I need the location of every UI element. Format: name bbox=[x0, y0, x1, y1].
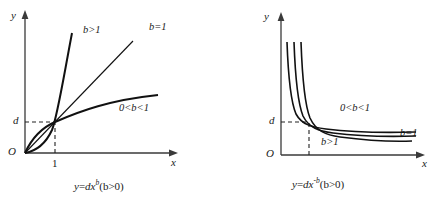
x-axis-right bbox=[281, 152, 425, 159]
caption-right: y=dx-b(b>0) bbox=[292, 178, 344, 190]
y-tick-label-d: d bbox=[269, 115, 275, 126]
caption-left: y=dxb(b>0) bbox=[74, 180, 124, 192]
chart-panel-power-negative: y x O d 0<b<1 b=1 b>1 y=dx-b(b>0) bbox=[220, 0, 440, 204]
plot-right-svg bbox=[220, 0, 440, 180]
x-axis-left bbox=[25, 150, 178, 157]
x-axis-label: x bbox=[171, 157, 176, 168]
x-tick-label-1: 1 bbox=[52, 158, 58, 169]
caption-left-condition: (b>0) bbox=[99, 180, 124, 192]
caption-right-condition: (b>0) bbox=[320, 178, 345, 190]
dashed-guides-right bbox=[281, 122, 309, 155]
curve-upper-b-between-0-and-1 bbox=[287, 42, 416, 132]
y-axis-label: y bbox=[264, 11, 269, 22]
y-axis-label: y bbox=[11, 10, 16, 21]
curve-b-greater-1 bbox=[25, 33, 72, 153]
curve-label-b-between-0-and-1: 0<b<1 bbox=[340, 103, 370, 114]
figure-container: y x O d 1 b>1 b=1 0<b<1 y=dxb(b>0) bbox=[0, 0, 440, 204]
plot-left-svg bbox=[0, 0, 220, 180]
curve-label-b-greater-1: b>1 bbox=[321, 137, 339, 148]
curve-lower-b-greater-1 bbox=[301, 42, 412, 141]
y-axis-left bbox=[22, 10, 29, 153]
y-tick-label-d: d bbox=[13, 115, 19, 126]
chart-panel-power-positive: y x O d 1 b>1 b=1 0<b<1 y=dxb(b>0) bbox=[0, 0, 220, 204]
origin-label: O bbox=[8, 146, 16, 157]
curve-b-equals-1 bbox=[25, 41, 133, 153]
origin-label: O bbox=[266, 148, 274, 159]
curve-label-b-between-0-and-1: 0<b<1 bbox=[119, 103, 149, 114]
curve-label-b-greater-1: b>1 bbox=[83, 25, 101, 36]
curve-label-b-equals-1: b=1 bbox=[149, 22, 167, 33]
x-axis-label: x bbox=[422, 158, 427, 169]
y-axis-right bbox=[278, 12, 285, 155]
curve-label-b-equals-1: b=1 bbox=[400, 128, 418, 139]
